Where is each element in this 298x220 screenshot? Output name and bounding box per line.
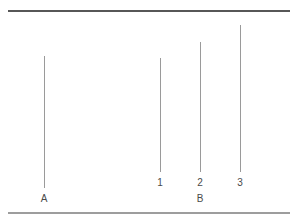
label-1: 1: [152, 178, 168, 188]
vertical-line-3: [240, 25, 241, 172]
label-2: 2: [192, 178, 208, 188]
label-3: 3: [232, 178, 248, 188]
top-rule: [8, 10, 290, 12]
line-length-figure: 1 2 3 A B: [0, 0, 298, 220]
label-b: B: [192, 194, 208, 204]
vertical-line-a: [44, 56, 45, 188]
vertical-line-2: [200, 42, 201, 172]
bottom-rule: [8, 212, 290, 214]
vertical-line-1: [160, 58, 161, 172]
label-a: A: [36, 194, 52, 204]
